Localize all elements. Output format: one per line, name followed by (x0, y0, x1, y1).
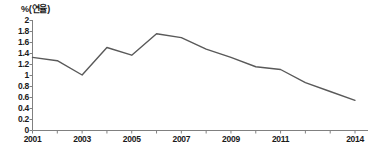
plot-area (0, 0, 375, 156)
x-axis-tick-label: 2005 (123, 134, 141, 144)
x-axis-tick-label: 2009 (222, 134, 240, 144)
x-axis-tick-label: 2007 (172, 134, 190, 144)
x-axis-tick-label: 2011 (272, 134, 289, 144)
line-chart: %(연율) 21.81.61.41.210.80.60.40.20 200120… (0, 0, 375, 156)
x-axis-tick-label: 2001 (24, 134, 42, 144)
x-axis-tick-label: 2014 (346, 134, 364, 144)
x-axis-tick-label: 2003 (73, 134, 91, 144)
data-series-line (33, 34, 356, 101)
